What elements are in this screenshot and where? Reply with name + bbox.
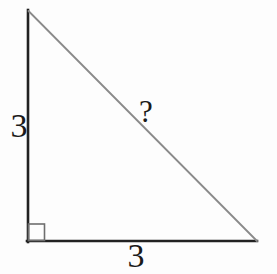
- hypotenuse-unknown-label: ?: [139, 94, 153, 129]
- figure-background: [0, 0, 277, 274]
- right-triangle-figure: 3 3 ?: [0, 0, 277, 274]
- bottom-side-length-label: 3: [128, 237, 145, 274]
- triangle-diagram-svg: 3 3 ?: [0, 0, 277, 274]
- left-side-length-label: 3: [11, 107, 28, 144]
